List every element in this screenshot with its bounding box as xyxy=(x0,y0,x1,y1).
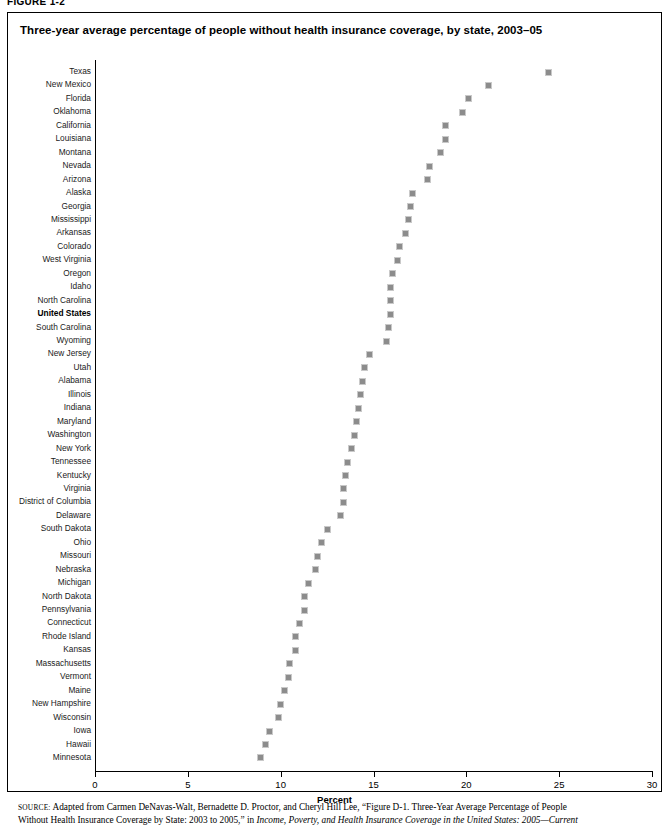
data-point-marker xyxy=(389,270,396,277)
category-label: Rhode Island xyxy=(3,632,95,641)
category-label: Georgia xyxy=(3,202,95,211)
category-label: Kentucky xyxy=(3,471,95,480)
source-label: SOURCE: xyxy=(18,803,51,812)
category-label: West Virginia xyxy=(3,255,95,264)
x-tick xyxy=(95,771,96,777)
chart-title: Three-year average percentage of people … xyxy=(20,24,542,36)
x-tick xyxy=(188,771,189,777)
category-label: Mississippi xyxy=(3,215,95,224)
category-label: Alaska xyxy=(3,188,95,197)
data-point-marker xyxy=(387,311,394,318)
category-label: Minnesota xyxy=(3,753,95,762)
data-point-marker xyxy=(344,459,351,466)
data-point-marker xyxy=(262,741,269,748)
data-point-marker xyxy=(337,512,344,519)
data-point-marker xyxy=(351,432,358,439)
data-point-marker xyxy=(402,230,409,237)
x-tick-label: 25 xyxy=(544,779,574,790)
source-line1: Adapted from Carmen DeNavas-Walt, Bernad… xyxy=(52,802,566,812)
category-label: Arkansas xyxy=(3,228,95,237)
category-label: New York xyxy=(3,444,95,453)
category-label: Arizona xyxy=(3,175,95,184)
data-point-marker xyxy=(485,82,492,89)
data-point-marker xyxy=(405,216,412,223)
category-label: North Carolina xyxy=(3,296,95,305)
x-tick xyxy=(466,771,467,777)
data-point-marker xyxy=(301,593,308,600)
category-label: Vermont xyxy=(3,672,95,681)
x-tick xyxy=(281,771,282,777)
source-line2-italic: Income, Poverty, and Health Insurance Co… xyxy=(256,815,577,825)
category-label: New Mexico xyxy=(3,80,95,89)
category-label: Hawaii xyxy=(3,740,95,749)
data-point-marker xyxy=(305,580,312,587)
category-label: Maine xyxy=(3,686,95,695)
data-point-marker xyxy=(342,472,349,479)
data-point-marker xyxy=(426,163,433,170)
data-point-marker xyxy=(292,647,299,654)
x-tick xyxy=(559,771,560,777)
data-point-marker xyxy=(361,364,368,371)
data-point-marker xyxy=(348,445,355,452)
category-label: Colorado xyxy=(3,242,95,251)
data-point-marker xyxy=(296,620,303,627)
data-point-marker xyxy=(281,687,288,694)
data-point-marker xyxy=(340,485,347,492)
data-point-marker xyxy=(545,69,552,76)
x-tick-label: 10 xyxy=(266,779,296,790)
x-tick xyxy=(652,771,653,777)
category-label: Wisconsin xyxy=(3,713,95,722)
source-line2-a: Without Health Insurance Coverage by Sta… xyxy=(18,815,256,825)
data-point-marker xyxy=(312,566,319,573)
data-point-marker xyxy=(383,338,390,345)
category-label: United States xyxy=(3,309,95,318)
category-label: Michigan xyxy=(3,578,95,587)
category-label: Massachusetts xyxy=(3,659,95,668)
data-point-marker xyxy=(340,499,347,506)
data-point-marker xyxy=(387,297,394,304)
category-label: California xyxy=(3,121,95,130)
category-label: Pennsylvania xyxy=(3,605,95,614)
category-label: New Hampshire xyxy=(3,699,95,708)
data-point-marker xyxy=(324,526,331,533)
category-label: Nevada xyxy=(3,161,95,170)
data-point-marker xyxy=(318,539,325,546)
data-point-marker xyxy=(442,136,449,143)
category-label: Maryland xyxy=(3,417,95,426)
data-point-marker xyxy=(396,243,403,250)
category-label: Delaware xyxy=(3,511,95,520)
y-axis-line xyxy=(95,60,96,771)
category-label: Iowa xyxy=(3,726,95,735)
data-point-marker xyxy=(409,190,416,197)
x-tick-label: 20 xyxy=(451,779,481,790)
category-label: Louisiana xyxy=(3,134,95,143)
data-point-marker xyxy=(292,633,299,640)
category-label: Illinois xyxy=(3,390,95,399)
data-point-marker xyxy=(285,674,292,681)
data-point-marker xyxy=(355,405,362,412)
x-tick-label: 15 xyxy=(359,779,389,790)
category-label: Idaho xyxy=(3,282,95,291)
x-tick-label: 0 xyxy=(80,779,110,790)
data-point-marker xyxy=(424,176,431,183)
category-label: Texas xyxy=(3,67,95,76)
data-point-marker xyxy=(459,109,466,116)
category-label: North Dakota xyxy=(3,592,95,601)
data-point-marker xyxy=(301,607,308,614)
data-point-marker xyxy=(277,701,284,708)
category-label: Nebraska xyxy=(3,565,95,574)
category-label: Tennessee xyxy=(3,457,95,466)
category-label: New Jersey xyxy=(3,349,95,358)
data-point-marker xyxy=(359,378,366,385)
category-label: Indiana xyxy=(3,403,95,412)
data-point-marker xyxy=(366,351,373,358)
data-point-marker xyxy=(357,391,364,398)
category-label: District of Columbia xyxy=(3,497,95,506)
category-label: Washington xyxy=(3,430,95,439)
category-label: Utah xyxy=(3,363,95,372)
data-point-marker xyxy=(385,324,392,331)
category-label: South Carolina xyxy=(3,323,95,332)
category-label: Oklahoma xyxy=(3,107,95,116)
category-label: Montana xyxy=(3,148,95,157)
category-label: Missouri xyxy=(3,551,95,560)
